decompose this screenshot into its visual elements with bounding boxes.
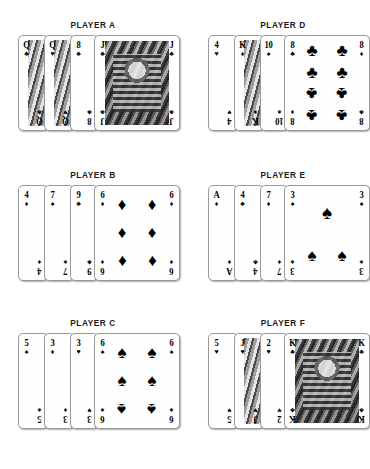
card-rank: 3 — [48, 337, 57, 348]
card-face: ♦♦♦♦♦♦6♦6♦6♦6♦ — [95, 186, 179, 280]
card-suit: ♣ — [166, 50, 177, 57]
hand-group: PLAYER F5♥5♥J♥J♥2♥2♥K♣K♣K♣K♣ — [208, 318, 358, 429]
card-face: Q♣Q♣ — [19, 36, 47, 130]
card-face: K♦K♦ — [235, 36, 263, 130]
card-index-top-right: 8♦ — [356, 39, 367, 57]
card-rank: 4 — [35, 266, 44, 277]
card-rank: 6 — [167, 337, 176, 348]
card-suit: ♠ — [97, 407, 108, 414]
playing-card[interactable]: ♣♣♣♣♣♣♣♣8♣8♣8♦8♦ — [284, 35, 370, 131]
card-rank: K — [357, 414, 366, 425]
card-rank: 7 — [275, 266, 284, 277]
card-face: 4♥4♥ — [209, 36, 237, 130]
card-index-top: J♥ — [237, 337, 248, 355]
card-rank: 5 — [22, 337, 31, 348]
card-index-top: K♣ — [287, 337, 298, 355]
card-pip: ♣ — [306, 42, 317, 59]
card-face: 5♥5♥ — [209, 334, 237, 428]
card-rank: 6 — [98, 266, 107, 277]
card-suit: ♠ — [166, 407, 177, 414]
card-face: A♦A♦ — [209, 186, 237, 280]
card-index-top: 7♦ — [263, 189, 274, 207]
card-face: ♣♣♣♣♣♣♣♣8♣8♣8♦8♦ — [285, 36, 369, 130]
card-pip: ♠ — [117, 344, 126, 361]
card-pip: ♣ — [306, 85, 317, 102]
card-suit: ♣ — [237, 200, 248, 207]
card-rank: A — [212, 189, 221, 200]
card-suit: ♣ — [73, 200, 84, 207]
card-face: K♣K♣K♣K♣ — [285, 334, 369, 428]
card-index-top: 10♠ — [263, 39, 274, 57]
card-face: J♥J♥ — [235, 334, 263, 428]
playing-card[interactable]: ♠♠♠♠♠♠6♠6♠6♠6♠ — [94, 333, 180, 429]
card-rank: 8 — [357, 39, 366, 50]
card-rank: J — [167, 39, 176, 50]
card-suit: ♠ — [263, 50, 274, 57]
card-face: ♠♠♠3♠3♠3♠3♠ — [285, 186, 369, 280]
hand-title: PLAYER D — [214, 20, 352, 30]
card-suit: ♦ — [97, 259, 108, 266]
card-suit: ♦ — [21, 200, 32, 207]
card-suit: ♥ — [263, 348, 274, 355]
card-rank: 8 — [288, 39, 297, 50]
card-rank: 6 — [167, 266, 176, 277]
card-index-bottom: K♣ — [356, 407, 367, 425]
card-index-bottom-left: J♣ — [97, 109, 108, 127]
card-suit: ♣ — [97, 50, 108, 57]
card-suit: ♠ — [287, 259, 298, 266]
card-suit: ♠ — [47, 200, 58, 207]
card-index-top: A♦ — [211, 189, 222, 207]
card-rank: 3 — [61, 414, 70, 425]
card-index-top: 9♣ — [73, 189, 84, 207]
playing-card[interactable]: ♠♠♠3♠3♠3♠3♠ — [284, 185, 370, 281]
card-rank: 6 — [167, 414, 176, 425]
card-index-top: 6♠ — [97, 337, 108, 355]
card-pip: ♦ — [148, 196, 157, 213]
card-pip: ♠ — [147, 401, 156, 418]
playing-card[interactable]: ♦♦♦♦♦♦6♦6♦6♦6♦ — [94, 185, 180, 281]
card-index-top-right: 3♠ — [356, 189, 367, 207]
card-rank: 3 — [288, 266, 297, 277]
card-pips: ♠♠♠♠♠♠ — [107, 338, 167, 424]
card-rank: 4 — [212, 39, 221, 50]
card-suit: ♥ — [73, 348, 84, 355]
card-suit: ♣ — [73, 50, 84, 57]
hand-cards: 5♠5♠3♦3♦3♥3♥♠♠♠♠♠♠6♠6♠6♠6♠ — [18, 333, 168, 429]
card-suit: ♣ — [21, 50, 32, 57]
card-rank: 8 — [357, 116, 366, 127]
playing-card[interactable]: K♣K♣K♣K♣ — [284, 333, 370, 429]
hand-group: PLAYER B4♦4♦7♠7♠9♣9♣♦♦♦♦♦♦6♦6♦6♦6♦ — [18, 170, 168, 281]
playing-card[interactable]: J♣J♣J♣J♣ — [94, 35, 180, 131]
hand-title: PLAYER B — [24, 170, 162, 180]
card-suit: ♣ — [287, 407, 298, 414]
card-rank: 6 — [167, 189, 176, 200]
card-rank: K — [288, 337, 297, 348]
card-suit: ♦ — [47, 348, 58, 355]
card-rank: 3 — [357, 189, 366, 200]
card-suit: ♣ — [287, 348, 298, 355]
card-rank: J — [251, 414, 260, 425]
card-index-top: 8♣ — [287, 39, 298, 57]
card-suit: ♥ — [211, 50, 222, 57]
card-rank: 4 — [22, 189, 31, 200]
card-rank: 9 — [85, 266, 94, 277]
card-rank: 7 — [61, 266, 70, 277]
card-rank: 5 — [225, 414, 234, 425]
card-rank: 4 — [225, 116, 234, 127]
hand-title: PLAYER C — [24, 318, 162, 328]
card-index-top: 3♦ — [47, 337, 58, 355]
card-rank: 8 — [74, 39, 83, 50]
card-index-top: K♦ — [237, 39, 248, 57]
card-face: 4♣4♣ — [235, 186, 263, 280]
card-index-top: 6♦ — [97, 189, 108, 207]
card-hands-board: PLAYER AQ♣Q♣Q♥Q♥8♣8♣J♣J♣J♣J♣PLAYER D4♥4♥… — [0, 0, 370, 469]
card-pip: ♠ — [117, 372, 126, 389]
card-pip: ♠ — [322, 203, 332, 222]
hand-cards: 4♦4♦7♠7♠9♣9♣♦♦♦♦♦♦6♦6♦6♦6♦ — [18, 185, 168, 281]
hand-title: PLAYER F — [214, 318, 352, 328]
card-suit: ♥ — [237, 348, 248, 355]
card-suit: ♣ — [356, 407, 367, 414]
card-rank: Q — [48, 39, 57, 50]
card-index-top: Q♥ — [47, 39, 58, 57]
card-index-top: 5♠ — [21, 337, 32, 355]
